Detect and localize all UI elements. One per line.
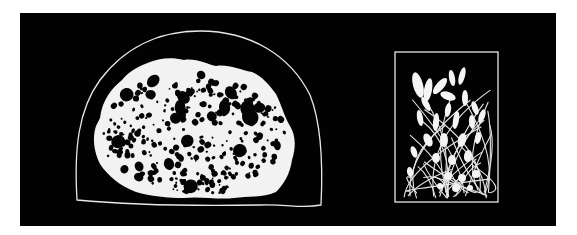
illustration [0,0,577,235]
